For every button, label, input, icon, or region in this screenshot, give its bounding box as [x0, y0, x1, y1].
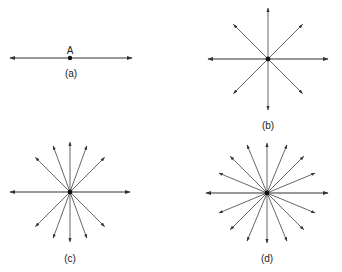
ray: [268, 24, 303, 59]
ray: [35, 157, 70, 192]
figure-c: [10, 142, 130, 242]
center-point: [68, 190, 73, 195]
lines-through-point-diagram: A (a) (b) (c) (d): [0, 0, 342, 272]
ray: [267, 193, 304, 230]
ray: [233, 24, 268, 59]
ray: [230, 193, 267, 230]
ray: [53, 192, 70, 238]
center-point: [266, 57, 271, 62]
ray: [233, 59, 268, 94]
caption-b: (b): [262, 120, 274, 131]
point-a: [68, 56, 72, 60]
caption-c: (c): [64, 253, 76, 264]
ray: [35, 192, 70, 227]
ray: [268, 59, 303, 94]
center-point: [265, 191, 270, 196]
ray: [70, 157, 105, 192]
figure-d: [206, 143, 328, 243]
ray: [230, 156, 267, 193]
ray: [267, 156, 304, 193]
caption-a: (a): [65, 68, 77, 79]
figure-b: [208, 8, 328, 110]
point-a-label: A: [67, 45, 74, 56]
ray: [70, 192, 87, 238]
figure-a: A (a): [10, 45, 132, 79]
ray: [70, 192, 105, 227]
ray: [53, 146, 70, 192]
ray: [70, 146, 87, 192]
caption-d: (d): [261, 253, 273, 264]
